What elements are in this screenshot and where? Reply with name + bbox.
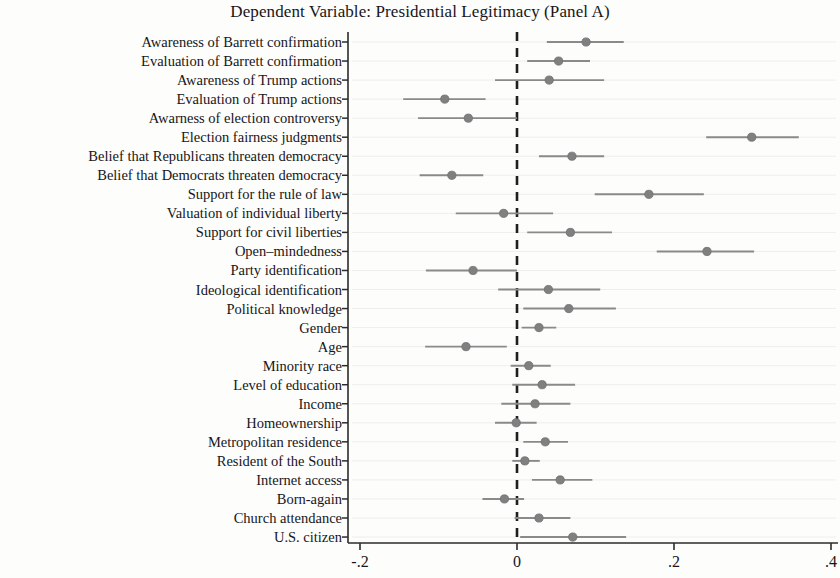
x-tick-label: 0 [513, 554, 521, 570]
x-tick-label: .4 [825, 554, 837, 570]
coefficient-plot-figure: Dependent Variable: Presidential Legitim… [0, 0, 840, 578]
x-axis-tick-labels: -.20.2.4 [0, 0, 840, 578]
x-tick-label: -.2 [351, 554, 368, 570]
plot-area: Awareness of Barrett confirmationEvaluat… [0, 0, 840, 578]
x-tick-label: .2 [668, 554, 680, 570]
